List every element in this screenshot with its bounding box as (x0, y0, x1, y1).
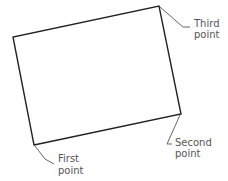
second-point-label: Second point (175, 137, 215, 159)
first-point-label: First point (58, 153, 84, 176)
third-point-label: Third point (193, 18, 223, 40)
third-point-leader (160, 7, 190, 27)
rectangle (13, 6, 181, 145)
first-point-leader (35, 146, 54, 164)
diagram-canvas: Third point Second point First point (0, 0, 228, 181)
